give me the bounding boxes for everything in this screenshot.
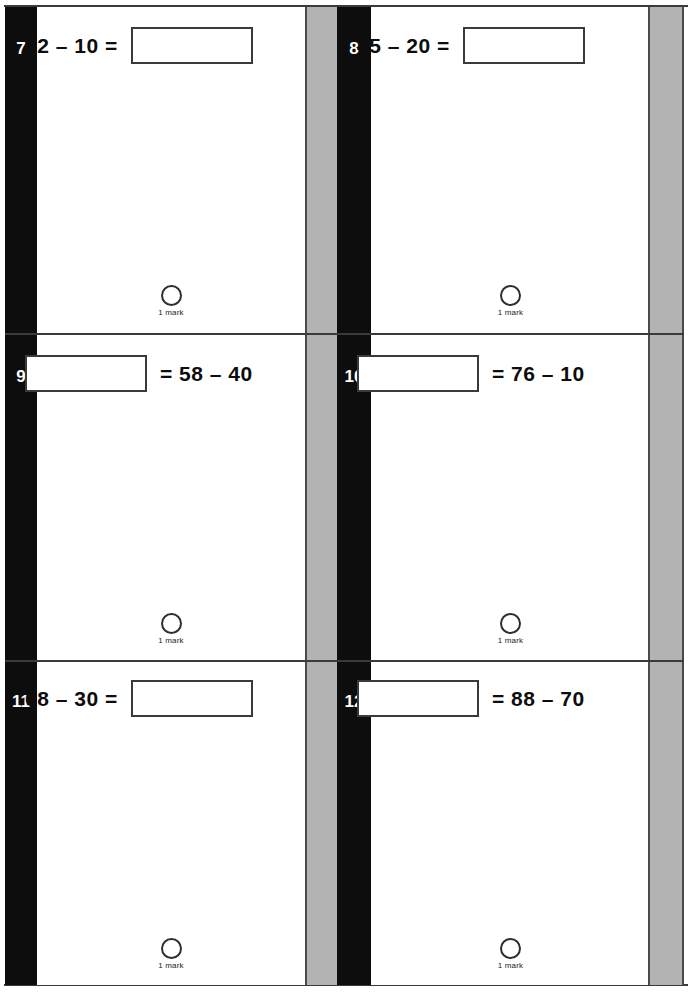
- question-expression: 45 – 20 =: [357, 27, 585, 64]
- mark-caption: 1 mark: [337, 962, 684, 970]
- question-expression: 68 – 30 =: [25, 680, 253, 717]
- question-row: 9 = 58 – 40 1 mark: [5, 333, 337, 660]
- question-expression: 32 – 10 =: [25, 27, 253, 64]
- row-divider: [337, 660, 684, 662]
- left-column: 7 32 – 10 = 1 mark 9 = 58 – 40 1 mark: [5, 7, 337, 985]
- row-divider: [5, 333, 337, 335]
- question-expression: = 76 – 10: [357, 355, 585, 392]
- mark-circle-icon: [500, 938, 521, 959]
- worksheet-page: 7 32 – 10 = 1 mark 9 = 58 – 40 1 mark: [0, 0, 692, 997]
- expression-trail-text: = 58 – 40: [160, 362, 253, 386]
- mark-circle-icon: [161, 613, 182, 634]
- answer-input[interactable]: [131, 680, 253, 717]
- mark-caption: 1 mark: [337, 637, 684, 645]
- mark-slot: 1 mark: [5, 285, 337, 317]
- expression-lead-text: 45 – 20 =: [357, 34, 450, 58]
- mark-circle-icon: [161, 285, 182, 306]
- question-row: 7 32 – 10 = 1 mark: [5, 7, 337, 333]
- mark-circle-icon: [500, 613, 521, 634]
- mark-circle-icon: [161, 938, 182, 959]
- row-divider: [5, 660, 337, 662]
- mark-caption: 1 mark: [337, 309, 684, 317]
- mark-slot: 1 mark: [5, 613, 337, 645]
- answer-input[interactable]: [131, 27, 253, 64]
- question-row: 10 = 76 – 10 1 mark: [337, 333, 684, 660]
- expression-trail-text: = 76 – 10: [492, 362, 585, 386]
- mark-slot: 1 mark: [337, 285, 684, 317]
- question-row: 12 = 88 – 70 1 mark: [337, 660, 684, 985]
- right-column: 8 45 – 20 = 1 mark 10 = 76 – 10 1 mark: [337, 7, 684, 985]
- answer-input[interactable]: [357, 680, 479, 717]
- mark-caption: 1 mark: [5, 309, 337, 317]
- mark-slot: 1 mark: [337, 613, 684, 645]
- question-expression: = 88 – 70: [357, 680, 585, 717]
- mark-caption: 1 mark: [5, 637, 337, 645]
- mark-caption: 1 mark: [5, 962, 337, 970]
- answer-input[interactable]: [25, 355, 147, 392]
- question-row: 8 45 – 20 = 1 mark: [337, 7, 684, 333]
- mark-slot: 1 mark: [5, 938, 337, 970]
- question-row: 11 68 – 30 = 1 mark: [5, 660, 337, 985]
- mark-circle-icon: [500, 285, 521, 306]
- answer-input[interactable]: [463, 27, 585, 64]
- question-expression: = 58 – 40: [25, 355, 253, 392]
- mark-slot: 1 mark: [337, 938, 684, 970]
- expression-lead-text: 68 – 30 =: [25, 687, 118, 711]
- expression-lead-text: 32 – 10 =: [25, 34, 118, 58]
- expression-trail-text: = 88 – 70: [492, 687, 585, 711]
- answer-input[interactable]: [357, 355, 479, 392]
- row-divider: [337, 333, 684, 335]
